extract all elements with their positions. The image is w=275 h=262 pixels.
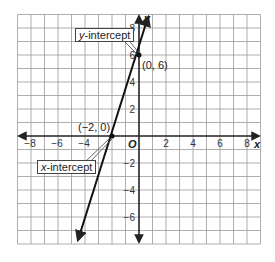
- coordinate-plane: −8 −6 −4 2 4 6 8 8 6 4 2 −2 −4 −6 x y O …: [0, 0, 275, 262]
- x-tick-label: 4: [190, 138, 196, 149]
- origin-label: O: [128, 138, 137, 150]
- y-axis-label: y: [143, 12, 151, 24]
- y-tick-label: 2: [129, 104, 135, 115]
- x-tick-label: 6: [217, 138, 223, 149]
- y-tick-label: −6: [124, 212, 136, 223]
- x-intercept-callout: x-intercept: [37, 160, 96, 174]
- y-intercept-coord-label: (0, 6): [142, 59, 168, 71]
- y-tick-label: 4: [129, 77, 135, 88]
- y-tick-label: 6: [129, 50, 135, 61]
- x-intercept-coord-label: (−2, 0): [78, 121, 110, 133]
- x-tick-label: 8: [244, 138, 250, 149]
- x-tick-label: −6: [51, 138, 63, 149]
- y-tick-label: −2: [124, 158, 136, 169]
- y-intercept-text: -intercept: [85, 29, 131, 41]
- x-intercept-text: -intercept: [47, 161, 93, 173]
- x-intercept-point: [110, 134, 115, 139]
- y-tick-label: −4: [124, 185, 136, 196]
- y-intercept-callout: y-intercept: [75, 28, 134, 42]
- x-tick-label: 2: [163, 138, 169, 149]
- y-intercept-point: [137, 53, 142, 58]
- x-tick-label: −4: [78, 138, 90, 149]
- x-tick-label: −8: [24, 138, 36, 149]
- x-axis-label: x: [253, 138, 261, 150]
